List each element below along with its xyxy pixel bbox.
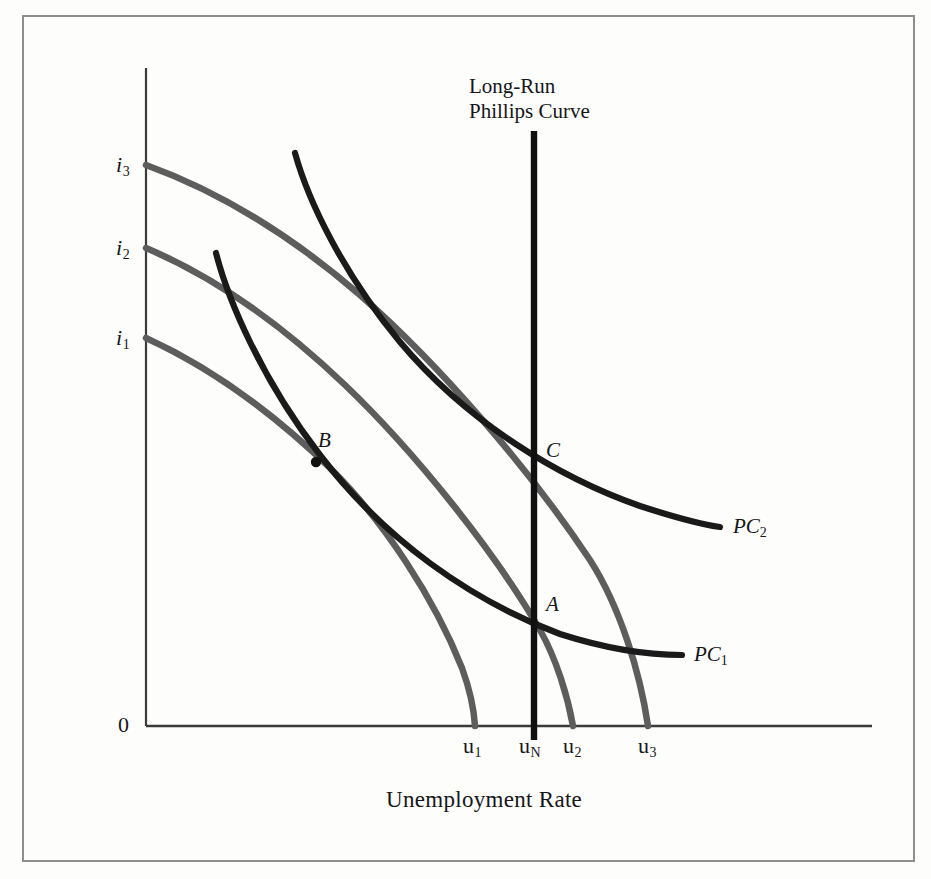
x-tick-label-u3: u3 [638, 733, 656, 759]
pc2-label-base: PC [733, 514, 760, 538]
pc1-label-base: PC [694, 642, 721, 666]
x-tick-u1-sub: 1 [475, 745, 482, 760]
ad-curve-3 [146, 165, 648, 726]
x-tick-u3-sub: 3 [650, 745, 657, 760]
pc2-curve [295, 153, 720, 527]
x-tick-un-sub: N [531, 745, 541, 760]
y-tick-label-i2: i2 [116, 235, 129, 261]
ad-curve-1 [146, 338, 475, 726]
point-a-label: A [546, 592, 559, 617]
pc1-label: PC1 [694, 642, 728, 667]
aggregate-demand-curves [146, 165, 648, 726]
axes-group [146, 68, 872, 726]
y-tick-i1-sub: 1 [123, 337, 130, 352]
y-tick-i3-sub: 3 [123, 164, 130, 179]
x-tick-label-u1: u1 [463, 733, 481, 759]
x-tick-u3-base: u [638, 733, 649, 758]
pc1-label-sub: 1 [721, 653, 728, 668]
x-axis-title: Unemployment Rate [386, 786, 582, 813]
y-tick-i2-sub: 2 [123, 247, 130, 262]
x-tick-un-base: u [519, 733, 530, 758]
y-tick-label-i3: i3 [116, 152, 129, 178]
lrpc-label-line1: Long-Run [469, 74, 590, 99]
long-run-phillips-curve-label: Long-Run Phillips Curve [469, 74, 590, 124]
point-b-label: B [318, 428, 331, 453]
y-tick-i1-base: i [116, 325, 122, 350]
x-tick-u2-sub: 2 [575, 745, 582, 760]
pc2-label-sub: 2 [760, 525, 767, 540]
origin-label: 0 [118, 712, 129, 738]
ad-curve-2 [146, 248, 573, 726]
marked-points [311, 457, 321, 467]
y-tick-i3-base: i [116, 152, 122, 177]
y-tick-label-i1: i1 [116, 325, 129, 351]
x-tick-label-un: uN [519, 733, 540, 759]
x-tick-u1-base: u [463, 733, 474, 758]
point-b-dot [311, 457, 321, 467]
phillips-curve-figure: Inflation Rate Unemployment Rate 0 i1 i2… [0, 0, 931, 879]
x-tick-label-u2: u2 [563, 733, 581, 759]
x-tick-u2-base: u [563, 733, 574, 758]
pc2-label: PC2 [733, 514, 767, 539]
lrpc-label-line2: Phillips Curve [469, 99, 590, 124]
point-c-label: C [546, 438, 560, 463]
y-tick-i2-base: i [116, 235, 122, 260]
